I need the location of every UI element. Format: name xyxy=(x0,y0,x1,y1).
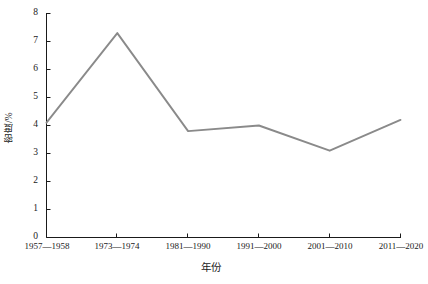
x-tick-label-1: 1973—1974 xyxy=(76,241,158,251)
y-axis-ticks xyxy=(47,14,51,238)
x-tick-label-4: 2001—2010 xyxy=(289,241,371,251)
x-axis-title: 年份 xyxy=(0,259,422,274)
x-tick-label-3: 1991—2000 xyxy=(218,241,300,251)
data-series-line xyxy=(47,33,401,151)
x-tick-label-2: 1981—1990 xyxy=(147,241,229,251)
x-axis-ticks xyxy=(47,234,401,238)
x-tick-label-5: 2011—2020 xyxy=(360,241,428,251)
